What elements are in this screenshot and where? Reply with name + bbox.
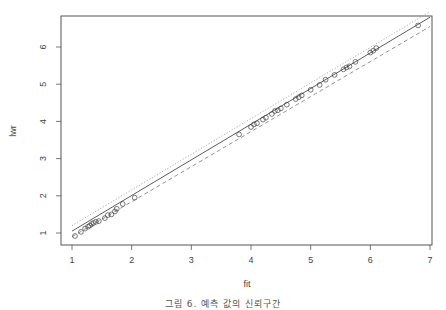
x-tick-label: 1: [69, 255, 74, 265]
x-tick-label: 5: [308, 255, 313, 265]
y-tick-label: 1: [38, 230, 48, 235]
y-tick-label: 6: [38, 44, 48, 49]
upper-line: [72, 12, 430, 226]
data-point: [249, 125, 254, 130]
data-point: [237, 132, 242, 137]
x-tick-label: 3: [189, 255, 194, 265]
x-axis-label: fit: [243, 279, 251, 289]
data-point: [255, 121, 260, 126]
y-axis: 123456: [38, 44, 61, 235]
x-tick-label: 6: [368, 255, 373, 265]
y-tick-label: 4: [38, 119, 48, 124]
fit-line: [72, 17, 430, 231]
x-tick-label: 2: [129, 255, 134, 265]
y-tick-label: 2: [38, 193, 48, 198]
y-tick-label: 3: [38, 156, 48, 161]
figure-caption: 그림 6. 예측 값의 신뢰구간: [0, 297, 446, 310]
y-tick-label: 5: [38, 82, 48, 87]
y-axis-label: lwr: [8, 125, 18, 137]
lower-line: [72, 27, 430, 237]
data-point: [120, 202, 125, 207]
x-axis: 1234567: [69, 245, 432, 265]
x-tick-label: 7: [427, 255, 432, 265]
x-tick-label: 4: [248, 255, 253, 265]
data-point: [269, 112, 274, 117]
data-point: [132, 195, 137, 200]
data-points: [73, 23, 421, 238]
